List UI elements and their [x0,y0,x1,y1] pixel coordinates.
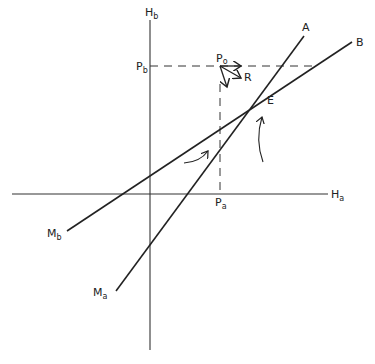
diagram-canvas: Hb Ha Pb Pa Po R A Ma B Mb E [0,0,375,364]
a-label: A [302,21,310,34]
b-label: B [356,36,364,49]
curved-arrow-left-icon [184,151,208,163]
mb-label: Mb [47,227,62,242]
line-b [67,42,352,231]
e-label: E [267,94,274,107]
curved-arrow-right-icon [259,117,263,162]
y-axis-label: Hb [145,6,158,21]
ma-label: Ma [93,286,108,301]
r-label: R [244,71,252,84]
x-axis-label: Ha [331,188,344,203]
pb-label: Pb [136,60,148,75]
pa-label: Pa [215,196,227,211]
po-label: Po [216,52,228,66]
